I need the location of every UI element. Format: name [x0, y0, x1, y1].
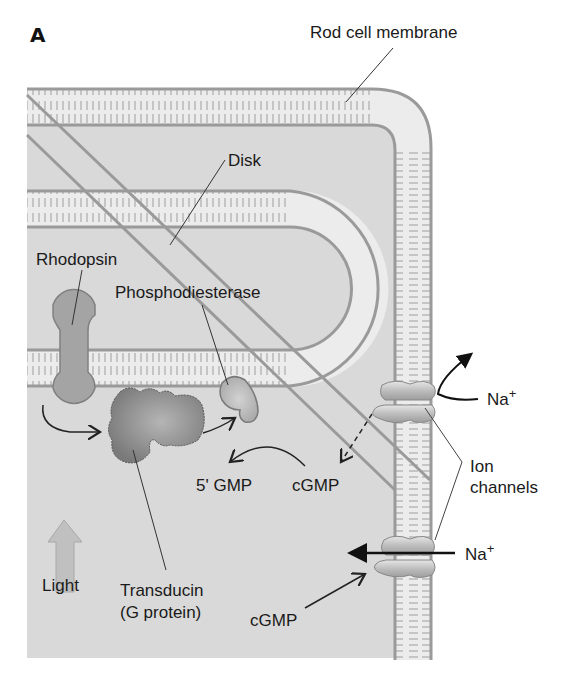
na-efflux-arrow	[438, 355, 478, 400]
label-5-gmp: 5' GMP	[196, 476, 252, 495]
label-cgmp-upper: cGMP	[292, 476, 339, 495]
label-cgmp-lower: cGMP	[250, 611, 297, 630]
label-light: Light	[42, 576, 79, 595]
label-transducin: Transducin	[120, 581, 203, 600]
label-g-protein: (G protein)	[120, 603, 201, 622]
label-disk: Disk	[228, 151, 262, 170]
rhodopsin-protein	[53, 290, 95, 404]
label-rod-cell-membrane: Rod cell membrane	[310, 23, 457, 42]
label-na-lower: Na+	[465, 541, 494, 564]
label-channels: channels	[470, 478, 538, 497]
label-phosphodiesterase: Phosphodiesterase	[115, 283, 261, 302]
panel-label: A	[30, 23, 46, 47]
label-rhodopsin: Rhodopsin	[36, 250, 117, 269]
label-ion: Ion	[470, 457, 494, 476]
label-na-upper: Na+	[487, 386, 516, 409]
rod-cell-diagram: A	[0, 0, 564, 679]
